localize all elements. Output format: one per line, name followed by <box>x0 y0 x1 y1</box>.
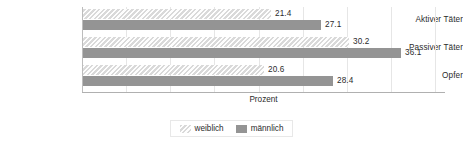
bar-maennlich-passiver-taeter[interactable] <box>83 48 401 58</box>
bar-maennlich-aktiver-taeter[interactable] <box>83 20 321 30</box>
bar-value-weiblich-passiver-taeter: 30.2 <box>353 37 369 47</box>
bar-weiblich-passiver-taeter[interactable] <box>83 37 349 47</box>
bar-weiblich-opfer[interactable] <box>83 65 264 75</box>
bar-value-maennlich-aktiver-taeter: 27.1 <box>325 20 341 30</box>
legend-box: weiblich männlich <box>170 120 294 137</box>
bar-weiblich-aktiver-taeter[interactable] <box>83 9 271 19</box>
grouped-bar-chart: Aktiver Täter Passiver Täter Opfer 21.4 … <box>0 0 463 152</box>
legend-label-maennlich: männlich <box>251 124 284 133</box>
legend-item-maennlich[interactable]: männlich <box>236 124 284 133</box>
legend-swatch-maennlich-icon <box>236 125 247 133</box>
bar-value-maennlich-passiver-taeter: 36.1 <box>405 48 421 58</box>
x-axis-line <box>82 92 445 93</box>
legend-label-weiblich: weiblich <box>195 124 224 133</box>
bar-value-maennlich-opfer: 28.4 <box>337 76 353 86</box>
legend-item-weiblich[interactable]: weiblich <box>180 124 224 133</box>
legend: weiblich männlich <box>0 120 463 137</box>
bar-value-weiblich-aktiver-taeter: 21.4 <box>275 9 291 19</box>
bars-container: 21.4 27.1 30.2 36.1 20.6 28.4 <box>83 7 445 92</box>
x-axis-title: Prozent <box>82 95 445 104</box>
bar-value-weiblich-opfer: 20.6 <box>268 65 284 75</box>
legend-swatch-weiblich-icon <box>180 125 191 133</box>
bar-maennlich-opfer[interactable] <box>83 76 333 86</box>
plot-area: Aktiver Täter Passiver Täter Opfer 21.4 … <box>0 0 463 104</box>
